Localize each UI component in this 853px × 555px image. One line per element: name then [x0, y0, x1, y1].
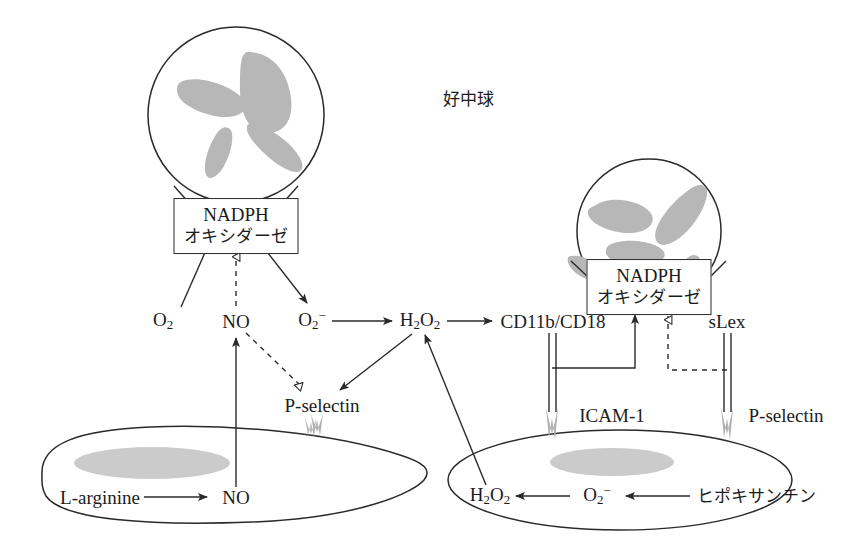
label-h2o2: H2O2	[400, 310, 440, 333]
diagram-canvas: box (hollow head = inhibition) --> P-sel…	[0, 0, 853, 555]
nadph-right-box-membrane-right	[710, 261, 726, 277]
edge-nadph-left-to-superoxide	[264, 248, 307, 303]
label-cd11b-cd18: CD11b/CD18	[501, 312, 606, 331]
edge-no-to-p-selectin-mid	[246, 333, 303, 388]
label-superoxide-endothelium: O2−	[583, 485, 610, 508]
spike-p-selectin-mid	[311, 414, 323, 436]
h2o2-h: H	[400, 309, 414, 330]
h2o2-endo-sub2: 2	[504, 492, 510, 507]
label-no: NO	[222, 312, 249, 331]
label-no-endothelium: NO	[222, 488, 249, 507]
label-hypoxanthine: ヒポキサンチン	[697, 488, 816, 505]
superoxide-element: O	[298, 309, 312, 330]
label-p-selectin-mid: P-selectin	[285, 396, 360, 415]
nadph-left-line1: NADPH	[184, 203, 289, 226]
label-slex: sLex	[709, 312, 746, 331]
neutrophil-title-label: 好中球	[443, 91, 494, 108]
o2-element: O	[153, 309, 167, 330]
edge-h2o2-to-p-selectin-mid	[340, 334, 412, 390]
superoxide-endo-element: O	[583, 484, 597, 505]
label-h2o2-endothelium: H2O2	[470, 485, 510, 508]
neutrophil-left-nucleus	[177, 52, 303, 178]
nadph-left-line2: オキシダーゼ	[184, 226, 289, 247]
h2o2-endo-o: O	[490, 484, 504, 505]
label-o2: O2	[153, 310, 173, 333]
edge-o2-to-nadph-left	[181, 248, 207, 307]
o2-subscript: 2	[167, 317, 173, 332]
endothelium-left-nucleus	[74, 447, 230, 479]
nadph-oxidase-left-box: NADPH オキシダーゼ	[174, 198, 299, 254]
h2o2-o: O	[420, 309, 434, 330]
superoxide-charge: −	[318, 308, 325, 323]
label-icam1: ICAM-1	[579, 406, 644, 425]
receptor-spikes	[305, 408, 733, 440]
nadph-right-line1: NADPH	[597, 264, 702, 287]
nadph-oxidase-right-box: NADPH オキシダーゼ	[587, 259, 712, 315]
diagram-vector-layer: box (hollow head = inhibition) --> P-sel…	[0, 0, 853, 555]
edge-endothelial-h2o2-to-h2o2	[425, 335, 486, 485]
bond-slex-pselectin	[724, 333, 731, 412]
label-p-selectin-right: P-selectin	[749, 406, 824, 425]
h2o2-sub2: 2	[434, 317, 440, 332]
endothelium-right-membrane	[448, 430, 792, 530]
spike-p-selectin-right	[721, 408, 733, 440]
label-l-arginine: L-arginine	[60, 488, 140, 507]
h2o2-endo-h: H	[470, 484, 484, 505]
superoxide-endo-charge: −	[603, 483, 610, 498]
nadph-right-line2: オキシダーゼ	[597, 287, 702, 308]
label-superoxide: O2−	[298, 310, 325, 333]
endothelium-right-nucleus	[550, 448, 674, 476]
bond-cd11b-icam1	[549, 333, 556, 412]
